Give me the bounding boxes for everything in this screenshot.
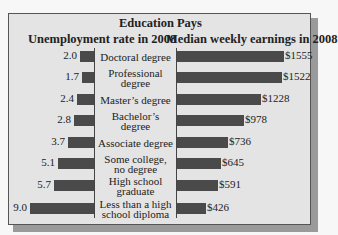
earnings-value: $426: [207, 201, 229, 213]
unemployment-bar: [30, 203, 94, 214]
unemployment-bar: [74, 115, 94, 126]
chart-row: 2.0Doctoral degree$1555: [0, 46, 321, 68]
earnings-bar: [177, 158, 221, 169]
category-label: High school graduate: [96, 175, 175, 197]
earnings-value: $1228: [262, 92, 290, 104]
unemployment-bar: [77, 94, 94, 105]
chart-row: 3.7Associate degree$736: [0, 132, 321, 154]
category-label: Associate degree: [96, 132, 175, 154]
unemployment-bar: [80, 51, 94, 62]
earnings-bar: [177, 180, 218, 191]
right-subtitle: Median weekly earnings in 2008: [166, 32, 338, 47]
category-label: Master’s degree: [96, 89, 175, 111]
unemployment-bar: [58, 158, 94, 169]
unemployment-bar: [82, 72, 94, 83]
chart-row: 2.8Bachelor’s degree$978: [0, 110, 321, 132]
earnings-bar: [177, 51, 284, 62]
chart-row: 5.7High school graduate$591: [0, 175, 321, 197]
unemployment-value: 9.0: [0, 201, 27, 213]
category-label: Professional degree: [96, 67, 175, 89]
unemployment-value: 1.7: [49, 70, 79, 82]
earnings-bar: [177, 72, 282, 83]
earnings-value: $1522: [283, 70, 311, 82]
earnings-bar: [177, 115, 244, 126]
chart-title: Education Pays: [0, 16, 321, 31]
unemployment-value: 5.1: [25, 156, 55, 168]
unemployment-value: 2.0: [47, 49, 77, 61]
category-label: Bachelor’s degree: [96, 110, 175, 132]
unemployment-value: 2.8: [41, 113, 71, 125]
chart-row: 5.1Some college, no degree$645: [0, 153, 321, 175]
earnings-value: $1555: [285, 49, 313, 61]
category-label: Less than a high school diploma: [96, 198, 175, 220]
category-label: Doctoral degree: [96, 46, 175, 68]
unemployment-value: 3.7: [35, 135, 65, 147]
chart-row: 9.0Less than a high school diploma$426: [0, 198, 321, 220]
unemployment-bar: [68, 137, 94, 148]
unemployment-value: 2.4: [44, 92, 74, 104]
chart-row: 1.7Professional degree$1522: [0, 67, 321, 89]
unemployment-value: 5.7: [21, 178, 51, 190]
earnings-bar: [177, 203, 206, 214]
earnings-value: $591: [219, 178, 241, 190]
unemployment-bar: [54, 180, 94, 191]
earnings-bar: [177, 94, 261, 105]
earnings-value: $736: [229, 135, 251, 147]
chart-row: 2.4Master’s degree$1228: [0, 89, 321, 111]
earnings-value: $645: [222, 156, 244, 168]
earnings-value: $978: [245, 113, 267, 125]
earnings-bar: [177, 137, 228, 148]
category-label: Some college, no degree: [96, 153, 175, 175]
left-subtitle: Unemployment rate in 2008: [28, 32, 176, 47]
